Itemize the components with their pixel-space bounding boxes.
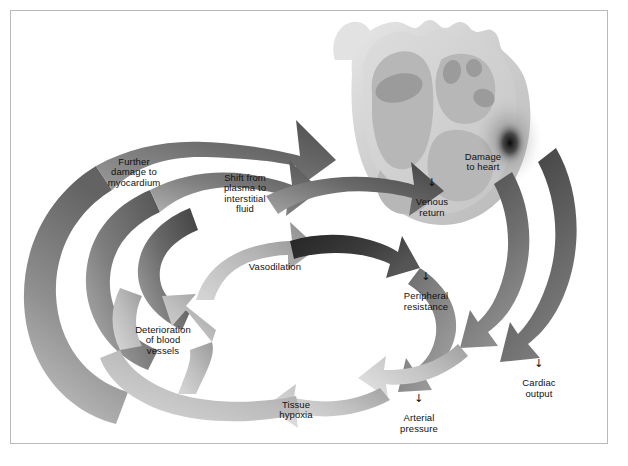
label-damage-to-heart: Damage to heart [452,141,514,173]
label-cardiac-output-text: Cardiac output [522,377,555,399]
label-arterial-pressure-text: Arterial pressure [400,412,438,434]
label-cardiac-output: ↓ Cardiac output [511,349,567,399]
figure-canvas: Further damage to myocardium Shift from … [0,0,628,466]
decrease-arrow-icon: ↓ [404,179,460,187]
label-shift-from-plasma-text: Shift from plasma to interstitial fluid [224,172,266,215]
label-arterial-pressure: ↓ Arterial pressure [388,384,450,434]
label-vasodilation: Vasodilation [242,251,308,272]
label-peripheral-resistance-text: Peripheral resistance [404,290,448,312]
decrease-arrow-icon: ↓ [394,273,458,281]
decrease-arrow-icon: ↓ [511,360,567,368]
label-deterioration-text: Deterioration of blood vessels [135,324,191,356]
label-damage-to-heart-text: Damage to heart [465,151,502,173]
label-peripheral-resistance: ↓ Peripheral resistance [394,262,458,312]
label-venous-return-text: Venous return [416,196,448,218]
label-vasodilation-text: Vasodilation [249,261,301,272]
label-further-damage-text: Further damage to myocardium [108,156,161,188]
label-tissue-hypoxia-text: Tissue hypoxia [279,399,312,421]
label-shift-from-plasma: Shift from plasma to interstitial fluid [212,162,278,215]
label-further-damage: Further damage to myocardium [95,146,173,188]
arrow-further-damage-outer [24,166,128,424]
label-tissue-hypoxia: Tissue hypoxia [267,389,325,421]
heart-chamber-left [372,51,434,169]
label-venous-return: ↓ Venous return [404,168,460,218]
decrease-arrow-icon: ↓ [388,395,450,403]
label-deterioration-of-blood-vessels: Deterioration of blood vessels [125,314,201,356]
